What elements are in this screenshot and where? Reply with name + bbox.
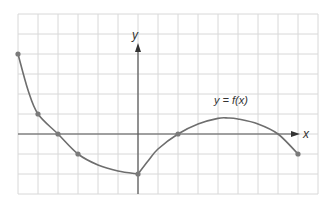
- data-point: [35, 111, 40, 116]
- data-point: [295, 151, 300, 156]
- y-axis-label: y: [132, 29, 138, 41]
- data-point: [75, 151, 80, 156]
- y-axis-arrow-icon: [135, 43, 141, 52]
- data-point: [175, 131, 180, 136]
- data-point: [15, 51, 20, 56]
- function-label: y = f(x): [214, 95, 248, 106]
- data-point: [135, 171, 140, 176]
- x-axis-arrow-icon: [291, 131, 300, 137]
- grid-lines: [18, 14, 318, 194]
- data-point: [55, 131, 60, 136]
- function-graph: [0, 0, 328, 210]
- x-axis-label: x: [303, 128, 309, 140]
